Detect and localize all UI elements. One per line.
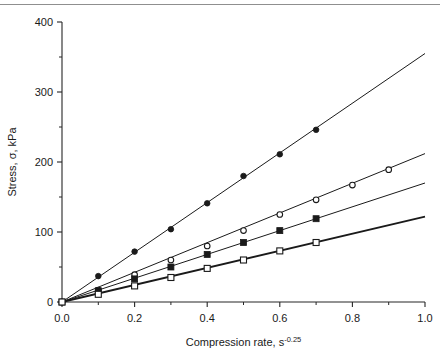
series-filled-circle-marker [96,273,102,279]
x-axis-title: Compression rate, s-0.25 [186,335,302,348]
series-open-circle-marker [386,167,392,173]
series-open-circle-marker [313,197,319,203]
x-axis-title-text: Compression rate, s [186,336,285,348]
series-filled-square-marker [277,228,283,234]
series-filled-circle-marker [204,201,210,207]
series-filled-square-marker [313,216,319,222]
y-tick-label: 200 [35,156,53,168]
series-open-circle-marker [241,228,247,234]
y-tick-label: 100 [35,226,53,238]
series-filled-circle-marker [168,226,174,232]
x-tick-label: 0.6 [272,312,287,324]
figure-container: 0100200300400 0.00.20.40.60.81.0 Stress,… [0,0,440,362]
series-open-square-marker [313,240,319,246]
series-open-square-marker [95,291,101,297]
x-tick-label: 0.8 [345,312,360,324]
series-filled-circle-marker [277,152,283,158]
series-filled-circle-marker [132,249,138,255]
series-open-circle-marker [277,212,283,218]
x-tick-label: 0.0 [54,312,69,324]
x-axis-ticks [62,302,425,307]
x-axis-tick-labels: 0.00.20.40.60.81.0 [54,312,432,324]
series-filled-square-marker [132,276,138,282]
series-markers-group [59,127,392,305]
series-filled-square-marker [204,251,210,257]
series-open-square-marker [168,275,174,281]
series-filled-circle-marker [313,127,319,133]
x-tick-label: 0.4 [200,312,215,324]
series-open-square-marker [204,265,210,271]
y-axis-title: Stress, σ, kPa [6,127,18,197]
y-axis-ticks [57,22,62,302]
y-tick-label: 400 [35,16,53,28]
series-filled-square-marker [168,264,174,270]
x-tick-label: 1.0 [417,312,432,324]
series-open-circle-marker [350,182,356,188]
series-open-circle-marker [204,243,210,249]
series-open-square-marker [241,257,247,263]
series-open-square-marker [132,283,138,289]
stress-vs-compression-rate-chart: 0100200300400 0.00.20.40.60.81.0 Stress,… [0,0,440,362]
series-filled-square-marker [241,240,247,246]
series-open-square-marker [59,299,65,305]
y-tick-label: 0 [47,296,53,308]
y-axis-tick-labels: 0100200300400 [35,16,53,308]
x-axis-title-superscript: -0.25 [284,335,301,344]
series-filled-circle-marker [241,173,247,179]
series-open-square-marker [277,248,283,254]
y-tick-label: 300 [35,86,53,98]
x-tick-label: 0.2 [127,312,142,324]
series-open-circle-marker [168,257,174,263]
